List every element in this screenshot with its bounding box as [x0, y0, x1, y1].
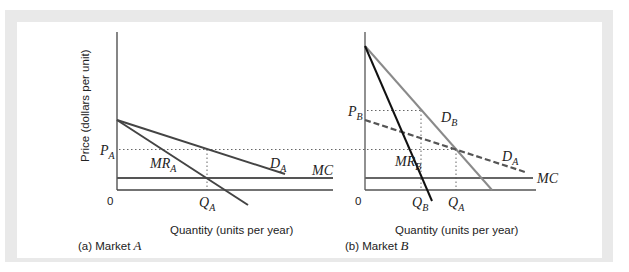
- x-axis-label-b: Quantity (units per year): [395, 224, 519, 236]
- price-label-b: PB: [347, 104, 363, 122]
- price-discrimination-diagram: Price (dollars per unit) 0 PA MRA DA MC …: [0, 0, 629, 272]
- demand-curve-b: [365, 46, 492, 190]
- mr-label-b: MRB: [394, 154, 421, 172]
- caption-b: (b) Market B: [345, 238, 409, 253]
- mr-label-a: MRA: [149, 156, 177, 174]
- x-axis-label-a: Quantity (units per year): [170, 224, 294, 236]
- caption-a: (a) Market A: [78, 238, 142, 253]
- panel-market-b: 0 PB DB DA MRB MC QB QA Quantity (units …: [345, 32, 559, 253]
- demand-curve-a-dashed: [365, 120, 525, 172]
- demand-label-b: DB: [440, 110, 457, 128]
- price-label-a: PA: [99, 143, 116, 161]
- mr-curve-a: [117, 120, 248, 205]
- mc-label-b: MC: [536, 171, 559, 186]
- panel-market-a: Price (dollars per unit) 0 PA MRA DA MC …: [78, 32, 456, 253]
- y-axis-label: Price (dollars per unit): [79, 49, 91, 162]
- demand-curve-a: [117, 120, 285, 174]
- origin-label-b: 0: [355, 195, 361, 207]
- origin-label-a: 0: [107, 195, 113, 207]
- qty-b-label: QB: [412, 195, 428, 213]
- qty-a-label-b: QA: [448, 195, 465, 213]
- qty-label-a: QA: [199, 195, 216, 213]
- mc-label-a: MC: [311, 163, 334, 178]
